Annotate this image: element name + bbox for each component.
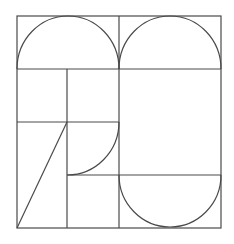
top-left-semicircle-arc — [17, 16, 119, 69]
diagonal-line — [17, 122, 67, 228]
geometric-diagram — [0, 0, 234, 244]
quarter-arc-arc — [67, 122, 119, 175]
top-right-semicircle-arc — [119, 16, 221, 69]
bottom-right-semicircle-arc — [119, 175, 221, 227]
